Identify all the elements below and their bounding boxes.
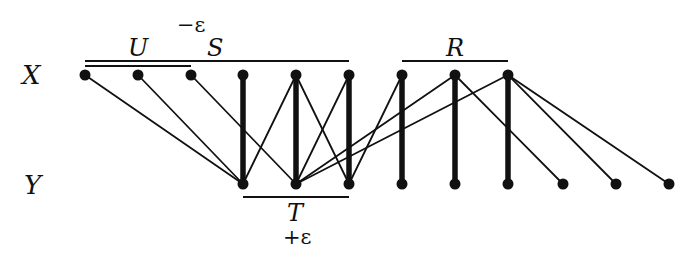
- set-label-u: U: [128, 34, 149, 62]
- y-node-7: [558, 179, 569, 190]
- minus-epsilon-label: −ε: [177, 13, 205, 37]
- y-node-6: [503, 179, 514, 190]
- plus-epsilon-label: +ε: [283, 225, 311, 249]
- x-node-1: [80, 70, 91, 81]
- set-label-t: T: [287, 199, 305, 227]
- row-label-y: Y: [24, 170, 44, 200]
- x-node-7: [397, 70, 408, 81]
- y-node-4: [397, 179, 408, 190]
- row-label-x: X: [20, 60, 42, 90]
- thin-edge: [296, 75, 455, 184]
- thin-edge: [85, 75, 243, 184]
- y-node-1: [238, 179, 249, 190]
- x-node-2: [133, 70, 144, 81]
- y-node-3: [344, 179, 355, 190]
- x-node-9: [503, 70, 514, 81]
- y-node-8: [611, 179, 622, 190]
- thin-edge: [138, 75, 243, 184]
- x-node-6: [344, 70, 355, 81]
- thin-edge: [243, 75, 296, 184]
- set-label-s: S: [207, 34, 223, 62]
- x-node-4: [238, 70, 249, 81]
- thin-edge: [508, 75, 669, 184]
- bipartite-graph-diagram: X Y U S −ε R T +ε: [0, 0, 688, 254]
- y-node-2: [291, 179, 302, 190]
- graph-edges: [85, 75, 669, 184]
- y-node-9: [664, 179, 675, 190]
- thin-edge: [508, 75, 616, 184]
- set-label-r: R: [445, 34, 464, 62]
- x-node-8: [450, 70, 461, 81]
- x-node-5: [291, 70, 302, 81]
- x-node-3: [186, 70, 197, 81]
- y-node-5: [450, 179, 461, 190]
